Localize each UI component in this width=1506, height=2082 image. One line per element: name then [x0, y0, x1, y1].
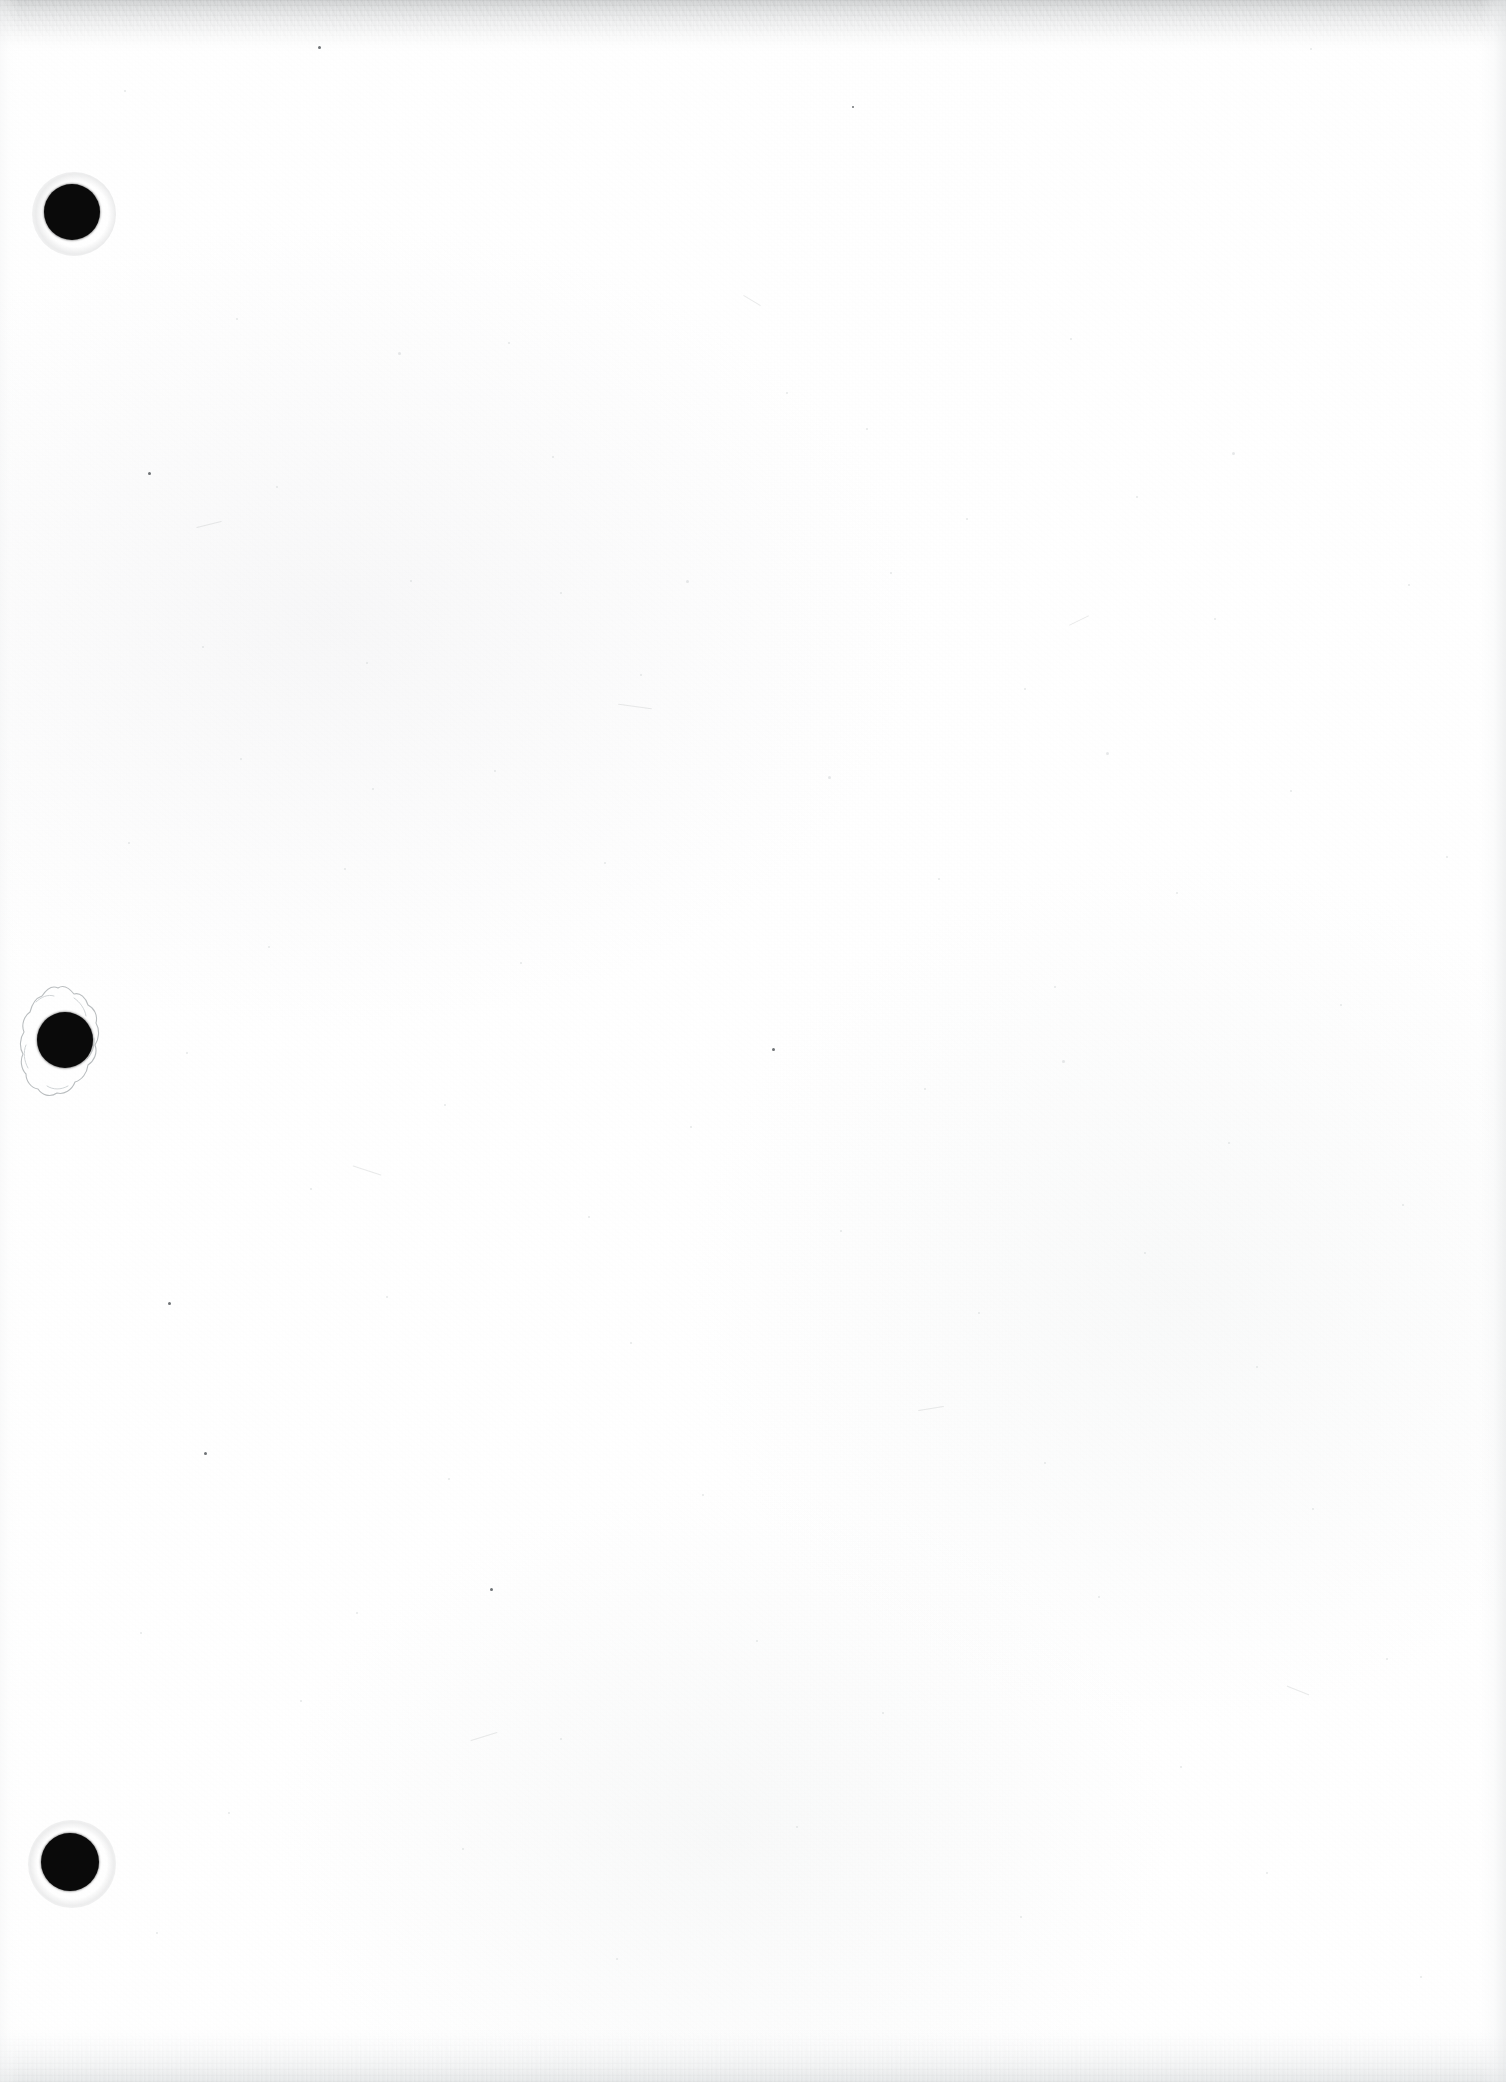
scan-edge-grain-bottom [0, 2032, 1506, 2082]
scan-edge-grain-top [0, 0, 1506, 46]
scan-edge-band-right [1480, 0, 1506, 2082]
scan-edge-band-left [0, 0, 20, 2082]
hole-punch-top [44, 184, 100, 240]
hole-punch-bottom [41, 1833, 99, 1891]
page-body-blank-area [140, 80, 1460, 1980]
hole-punch-middle [37, 1012, 93, 1068]
scanned-page [0, 0, 1506, 2082]
